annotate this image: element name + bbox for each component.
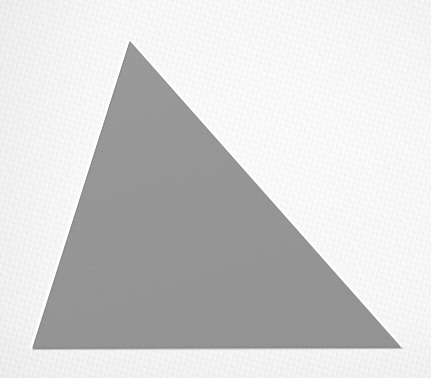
- triangle-figure: [0, 0, 431, 378]
- triangle-bottom-edge-line: [33, 347, 400, 348]
- triangle-grain-overlay: [0, 0, 431, 378]
- figure-canvas: [0, 0, 431, 378]
